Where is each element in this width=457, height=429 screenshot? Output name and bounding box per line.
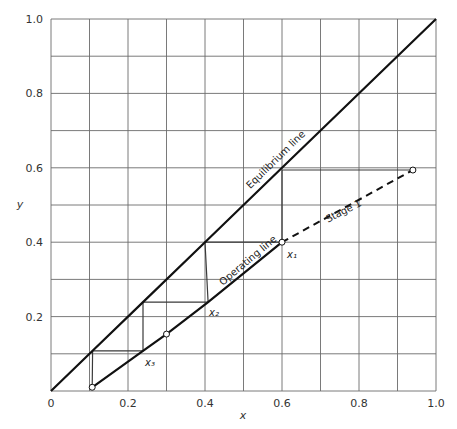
data-point-marker: [279, 239, 285, 245]
data-point-marker: [410, 167, 416, 173]
annotations: Equilibrium lineOperating lineStage 1x₁x…: [144, 128, 363, 368]
x3-label: x₃: [144, 357, 155, 368]
markers: [89, 167, 416, 390]
x-tick-label: 0: [48, 397, 55, 410]
data-point-marker: [164, 331, 170, 337]
y-tick-label: 0.2: [26, 311, 44, 324]
x-tick-label: 0.4: [196, 397, 214, 410]
x-tick-label: 0.2: [119, 397, 137, 410]
x1-label: x₁: [286, 249, 297, 260]
stage-steps: [92, 170, 413, 387]
x2-label: x₂: [208, 307, 219, 318]
y-axis-label: y: [16, 198, 24, 211]
data-point-marker: [89, 384, 95, 390]
operating-line: [92, 242, 282, 387]
x-tick-label: 0.6: [273, 397, 291, 410]
stage-step-lines: [92, 170, 413, 387]
y-tick-label: 0.6: [26, 162, 44, 175]
x-tick-label: 1.0: [427, 397, 445, 410]
chart: 00.20.40.60.81.00.20.40.60.81.0 Equilibr…: [0, 0, 457, 429]
x-axis-label: x: [239, 409, 247, 422]
equilibrium-line-label: Equilibrium line: [244, 128, 307, 190]
x-tick-label: 0.8: [350, 397, 368, 410]
y-tick-label: 0.4: [26, 236, 44, 249]
y-tick-label: 0.8: [26, 87, 44, 100]
y-tick-label: 1.0: [26, 13, 44, 26]
stage-1-label: Stage 1: [324, 197, 363, 224]
